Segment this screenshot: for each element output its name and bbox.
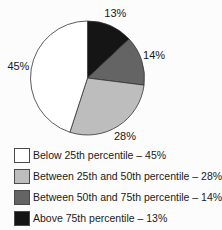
pie-slice-label: 45%: [7, 60, 29, 72]
pie-slice-label: 13%: [104, 7, 126, 19]
legend-label: Between 25th and 50th percentile – 28%: [33, 170, 222, 183]
legend: Below 25th percentile – 45%Between 25th …: [0, 146, 222, 226]
legend-color-swatch: [14, 211, 30, 226]
legend-color-swatch: [14, 148, 30, 163]
pie-slice-label: 14%: [143, 49, 165, 61]
legend-label: Above 75th percentile – 13%: [33, 212, 167, 225]
legend-item: Between 50th and 75th percentile – 14%: [14, 190, 222, 205]
legend-item: Above 75th percentile – 13%: [14, 211, 222, 226]
legend-color-swatch: [14, 169, 30, 184]
pie-chart: 13%14%28%45%: [0, 0, 222, 146]
percentile-pie-figure: 13%14%28%45% Below 25th percentile – 45%…: [0, 0, 222, 230]
legend-item: Below 25th percentile – 45%: [14, 148, 222, 163]
pie-slice-label: 28%: [114, 130, 136, 142]
legend-label: Between 50th and 75th percentile – 14%: [33, 191, 222, 204]
legend-item: Between 25th and 50th percentile – 28%: [14, 169, 222, 184]
legend-color-swatch: [14, 190, 30, 205]
legend-label: Below 25th percentile – 45%: [33, 149, 166, 162]
